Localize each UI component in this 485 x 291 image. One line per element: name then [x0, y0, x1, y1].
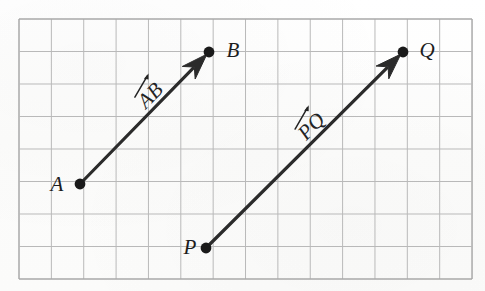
- vector-pq: [206, 54, 401, 248]
- point-dot-a: [75, 179, 86, 190]
- vector-ab: [80, 54, 207, 184]
- point-dot-q: [398, 47, 409, 58]
- vector-shaft: [206, 68, 387, 248]
- vector-diagram-figure: ABPQ ABPQ: [0, 0, 485, 291]
- point-label-a: A: [51, 174, 64, 195]
- vector-layer: [0, 0, 485, 291]
- point-label-b: B: [227, 40, 240, 61]
- point-dot-p: [201, 243, 212, 254]
- point-label-q: Q: [419, 40, 434, 61]
- point-dot-b: [204, 47, 215, 58]
- point-label-p: P: [184, 237, 197, 258]
